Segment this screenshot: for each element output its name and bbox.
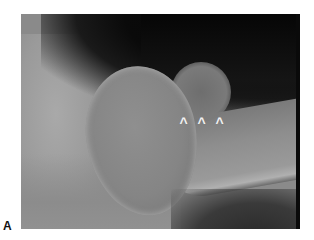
- arrowhead-icon: ^: [214, 118, 225, 129]
- arrowhead-markers: ^ ^ ^: [178, 118, 225, 129]
- air-shadow-bottom: [171, 189, 300, 229]
- panel-label: A: [3, 219, 12, 233]
- arrowhead-icon: ^: [178, 118, 189, 129]
- xray-image: [21, 14, 300, 229]
- film-edge: [296, 14, 300, 229]
- arrowhead-icon: ^: [196, 118, 207, 129]
